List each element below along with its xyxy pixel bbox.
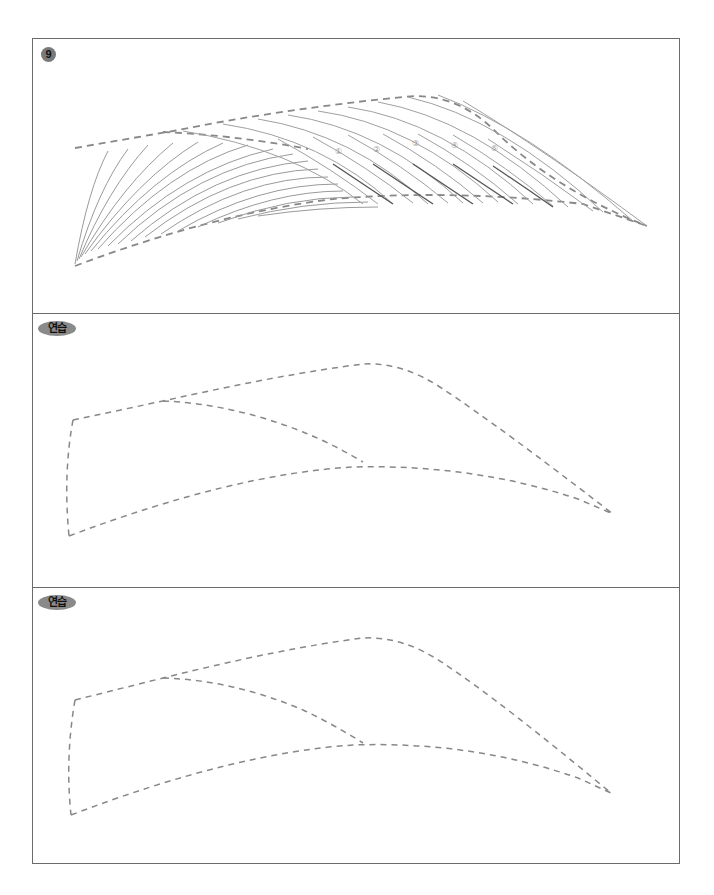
stroke-label-5: ⑤: [491, 144, 498, 153]
eyebrow-example-drawing: ① ② ③ ④ ⑤: [33, 39, 681, 313]
stroke-label-4: ④: [451, 141, 458, 150]
worksheet-page: 9: [32, 38, 680, 864]
stroke-label-1: ①: [335, 147, 342, 156]
practice-outline-guide: [33, 314, 681, 588]
example-panel: 9: [33, 39, 679, 313]
stroke-label-3: ③: [412, 139, 419, 148]
practice-panel-1[interactable]: 연습: [33, 313, 679, 587]
practice-outline-guide: [33, 588, 681, 864]
hair-strokes-falling: [183, 95, 647, 226]
stroke-label-2: ②: [373, 145, 380, 154]
practice-panel-2[interactable]: 연습: [33, 587, 679, 863]
